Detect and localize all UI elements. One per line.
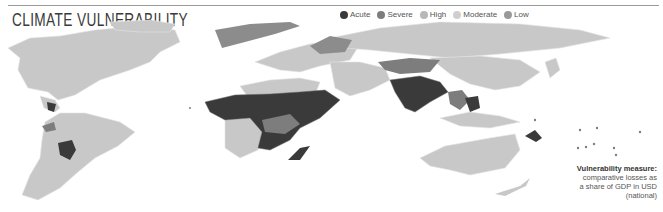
region-north-america bbox=[8, 26, 180, 100]
region-south-america bbox=[22, 113, 135, 200]
note-line: (national) bbox=[577, 191, 657, 200]
region-middle-east bbox=[330, 62, 390, 96]
world-map bbox=[0, 0, 663, 212]
note-line: comparative losses as bbox=[577, 173, 657, 182]
region-japan bbox=[545, 58, 560, 78]
region-south-asia-acute bbox=[390, 76, 448, 112]
region-png-acute bbox=[525, 130, 542, 142]
region-australia bbox=[420, 134, 520, 175]
region-central-asia-severe bbox=[378, 58, 440, 74]
note-line: a share of GDP in USD bbox=[577, 182, 657, 191]
region-russia bbox=[330, 22, 610, 58]
note-heading: Vulnerability measure: bbox=[577, 164, 657, 173]
region-madagascar bbox=[288, 146, 310, 160]
vulnerability-note: Vulnerability measure: comparative losse… bbox=[577, 164, 657, 200]
region-se-asia-islands bbox=[440, 112, 520, 128]
region-se-asia-acute bbox=[465, 96, 480, 112]
region-canada-arctic bbox=[110, 20, 175, 32]
region-china-east-asia bbox=[430, 56, 540, 90]
region-new-zealand bbox=[495, 178, 530, 196]
region-greenland bbox=[215, 22, 300, 48]
